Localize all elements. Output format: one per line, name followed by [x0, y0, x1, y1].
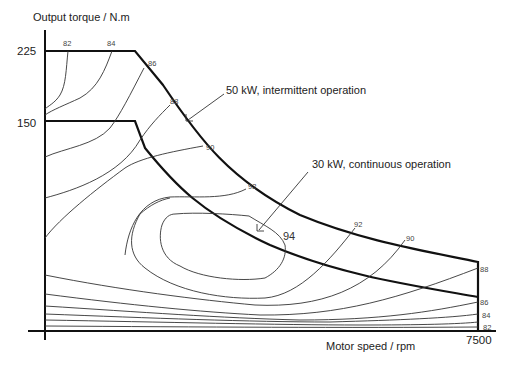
- annotation-30kw: 30 kW, continuous operation: [312, 158, 451, 170]
- contour-94: [160, 213, 285, 279]
- contour-84: [45, 51, 112, 115]
- x-tick-7500: 7500: [466, 334, 492, 346]
- contour-label-84: 84: [107, 39, 115, 48]
- contour-label-90-right: 90: [406, 234, 414, 243]
- x-axis-label: Motor speed / rpm: [326, 340, 415, 352]
- arrow-50kw: [188, 94, 224, 120]
- y-tick-225: 225: [17, 45, 36, 57]
- contour-label-84-right: 84: [482, 311, 490, 320]
- contour-label-82: 82: [63, 39, 71, 48]
- contour-label-82-right: 82: [483, 323, 491, 332]
- contour-88-right: [45, 302, 478, 320]
- y-axis-label: Output torque / N.m: [33, 11, 130, 23]
- arrow-30kw: [259, 172, 308, 230]
- contour-88: [45, 105, 170, 198]
- contour-label-94: 94: [283, 230, 295, 242]
- efficiency-map-chart: Output torque / N.m Motor speed / rpm 22…: [0, 0, 519, 368]
- contour-86: [45, 68, 144, 157]
- contour-label-92: 92: [248, 182, 256, 191]
- contour-82: [45, 51, 68, 109]
- annotation-50kw: 50 kW, intermittent operation: [226, 84, 366, 96]
- contour-label-86-right: 86: [480, 298, 488, 307]
- contour-82-right: [45, 326, 478, 327]
- contour-label-90: 90: [206, 143, 214, 152]
- contour-90-right: [45, 268, 478, 315]
- contour-label-86: 86: [148, 59, 156, 68]
- contour-label-92-right: 92: [354, 220, 362, 229]
- envelope-30kw: [45, 121, 478, 297]
- y-tick-150: 150: [17, 117, 36, 129]
- contour-93: [132, 198, 355, 298]
- contour-label-88-right: 88: [480, 265, 488, 274]
- contour-label-88: 88: [170, 97, 178, 106]
